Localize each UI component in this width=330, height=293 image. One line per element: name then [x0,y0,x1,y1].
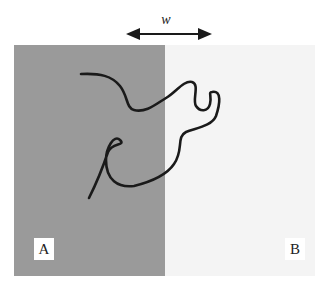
width-arrow-icon [126,28,212,40]
region-b-label: B [285,238,305,260]
width-label: w [161,12,171,27]
region-a-label: A [34,238,54,260]
